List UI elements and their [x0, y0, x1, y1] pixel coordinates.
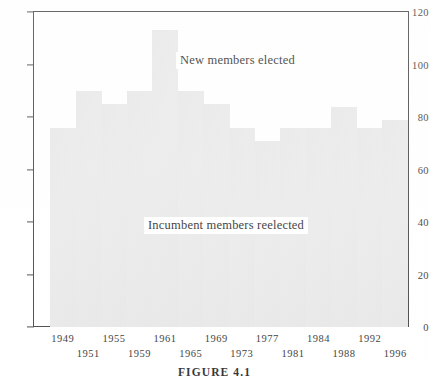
bar-texture — [76, 91, 102, 327]
x-tick-label: 1959 — [128, 348, 151, 359]
x-tick-label: 1992 — [358, 333, 381, 344]
x-tick-label: 1949 — [51, 333, 74, 344]
figure-caption: FIGURE 4.1 — [0, 366, 429, 378]
bar-texture — [357, 128, 383, 328]
y-tick-mark — [27, 64, 34, 65]
bar — [101, 104, 127, 327]
x-tick-label: 1984 — [307, 333, 330, 344]
x-tick-label: 1961 — [154, 333, 177, 344]
bar — [382, 120, 408, 327]
bar — [357, 128, 383, 328]
bar — [50, 128, 76, 328]
x-tick-label: 1973 — [230, 348, 253, 359]
bar-texture — [331, 107, 357, 328]
x-tick-label: 1981 — [281, 348, 304, 359]
annotation-incumbent-members: Incumbent members reelected — [144, 217, 308, 234]
y-tick-mark — [27, 11, 34, 12]
y-tick-mark — [27, 116, 34, 117]
bar — [178, 91, 204, 327]
y-tick-mark — [27, 221, 34, 222]
bar-texture — [127, 91, 153, 327]
figure-4-1: 020406080100120 194919511955195919611965… — [0, 0, 429, 388]
bar — [127, 91, 153, 327]
bar — [331, 107, 357, 328]
bar-texture — [306, 128, 332, 328]
bar-texture — [382, 120, 408, 327]
bar-texture — [178, 91, 204, 327]
bar — [203, 104, 229, 327]
x-tick-label: 1988 — [333, 348, 356, 359]
x-tick-label: 1969 — [205, 333, 228, 344]
bar-texture — [101, 104, 127, 327]
bar-texture — [203, 104, 229, 327]
bar-texture — [152, 30, 178, 327]
bar — [76, 91, 102, 327]
y-tick-mark — [27, 274, 34, 275]
y-tick-mark — [27, 169, 34, 170]
annotation-new-members: New members elected — [176, 52, 299, 69]
y-tick-mark — [27, 326, 34, 327]
x-tick-label: 1965 — [179, 348, 202, 359]
x-tick-label: 1977 — [256, 333, 279, 344]
x-tick-label: 1955 — [102, 333, 125, 344]
bar — [306, 128, 332, 328]
bar — [152, 30, 178, 327]
bar-texture — [50, 128, 76, 328]
x-tick-label: 1996 — [384, 348, 407, 359]
x-tick-label: 1951 — [77, 348, 100, 359]
